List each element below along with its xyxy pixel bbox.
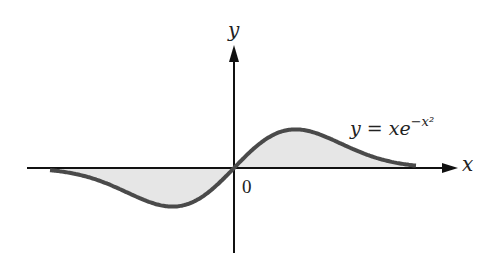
y-axis-label: y [228,18,239,42]
y-axis-arrow-icon [229,45,239,62]
x-axis-label: x [462,152,473,176]
chart: y x 0 y = xe−x² [0,0,495,266]
x-axis-arrow-icon [442,163,458,173]
equation-label: y = xe−x² [350,116,434,139]
origin-label: 0 [242,176,252,198]
equation-main: y = xe [350,117,411,139]
equation-exponent: −x² [411,114,434,129]
